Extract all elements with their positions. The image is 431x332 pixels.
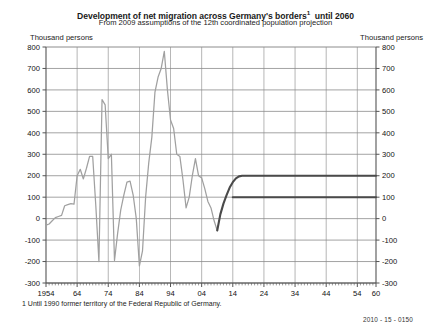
series-line-historical	[46, 51, 217, 266]
x-tick-label: 64	[73, 289, 81, 298]
y-tick-label-left: 100	[27, 193, 40, 202]
y-tick-label-left: 600	[27, 86, 40, 95]
y-axis-left-group: 8007006005004003002001000-100-200-300	[25, 43, 46, 288]
y-tick-label-left: 200	[27, 171, 40, 180]
y-tick-label-left: 500	[27, 107, 40, 116]
x-tick-label: 34	[291, 289, 299, 298]
x-tick-label: 14	[229, 289, 237, 298]
y-tick-label-right: 500	[382, 107, 395, 116]
y-tick-label-right: 800	[382, 43, 395, 52]
x-tick-label: 24	[260, 289, 268, 298]
y-tick-label-right: 600	[382, 86, 395, 95]
y-tick-label-right: 300	[382, 150, 395, 159]
y-tick-label-left: -100	[25, 236, 40, 245]
migration-chart-figure: Development of net migration across Germ…	[0, 0, 431, 332]
y-tick-label-right: 200	[382, 171, 395, 180]
x-tick-label: 84	[135, 289, 143, 298]
x-tick-label: 44	[322, 289, 330, 298]
y-tick-label-right: 100	[382, 193, 395, 202]
chart-plot-area: 8007006005004003002001000-100-200-300 80…	[0, 0, 431, 332]
y-tick-label-left: -300	[25, 279, 40, 288]
y-tick-label-right: 700	[382, 64, 395, 73]
y-tick-label-right: 0	[382, 214, 386, 223]
gridlines-group	[46, 47, 376, 283]
y-tick-label-left: 800	[27, 43, 40, 52]
x-tick-label: 94	[166, 289, 174, 298]
chart-footnote: 1 Until 1990 former territory of the Fed…	[22, 300, 221, 307]
series-line-projection	[217, 176, 376, 231]
y-tick-label-left: -200	[25, 257, 40, 266]
y-tick-label-left: 400	[27, 129, 40, 138]
x-tick-label: 60	[372, 289, 380, 298]
y-tick-label-right: -100	[382, 236, 397, 245]
y-tick-label-left: 300	[27, 150, 40, 159]
y-tick-label-right: -200	[382, 257, 397, 266]
y-tick-label-right: -300	[382, 279, 397, 288]
y-tick-label-left: 0	[36, 214, 40, 223]
source-code-label: 2010 - 15 - 0150	[363, 316, 413, 323]
y-axis-right-group: 8007006005004003002001000-100-200-300	[376, 43, 397, 288]
y-tick-label-left: 700	[27, 64, 40, 73]
x-axis-group: 19546474849404142434445460	[38, 283, 381, 298]
y-tick-label-right: 400	[382, 129, 395, 138]
x-tick-label: 54	[353, 289, 361, 298]
x-tick-label: 04	[197, 289, 205, 298]
x-tick-label: 1954	[38, 289, 55, 298]
x-tick-label: 74	[104, 289, 112, 298]
